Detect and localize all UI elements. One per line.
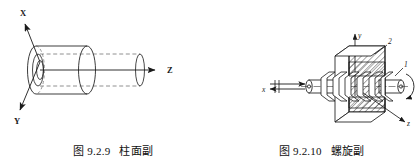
part-numbers: 2 1 [388, 37, 408, 69]
part-number-1: 1 [404, 60, 408, 69]
axis-line-x [25, 24, 40, 62]
nut-engagement-lower [349, 97, 385, 108]
coordinate-axes-xyz [20, 24, 155, 110]
cylindrical-pair-drawing: X Y Z [0, 0, 209, 130]
axis-label-x: x [261, 85, 266, 94]
part-number-2: 2 [388, 37, 392, 46]
axis-label-y: Y [14, 116, 20, 126]
nut-engagement-upper [349, 62, 385, 76]
axis-label-y: y [357, 31, 362, 40]
axis-label-z: z [406, 119, 410, 128]
translation-arrow [270, 80, 305, 93]
figure-sheet: X Y Z [0, 0, 417, 159]
caption-number-left: 图 9.2.9 [73, 145, 110, 157]
figure-panel-cylindrical-pair: X Y Z [0, 0, 209, 159]
caption-title-right: 螺旋副 [331, 145, 365, 157]
leader-line-part-1 [395, 68, 403, 76]
figure-panel-helical-pair: y x z [209, 0, 417, 159]
axis-label-x: X [20, 8, 27, 18]
caption-title-left: 柱面副 [119, 145, 153, 157]
helical-pair-drawing: y x z [209, 0, 417, 130]
axis-label-z: Z [167, 65, 173, 75]
figure-caption-helical-pair: 图 9.2.10螺旋副 [209, 130, 417, 159]
caption-number-right: 图 9.2.10 [279, 145, 322, 157]
figure-caption-cylindrical-pair: 图 9.2.9柱面副 [0, 130, 209, 159]
sleeve-left-face-visible [28, 46, 36, 94]
